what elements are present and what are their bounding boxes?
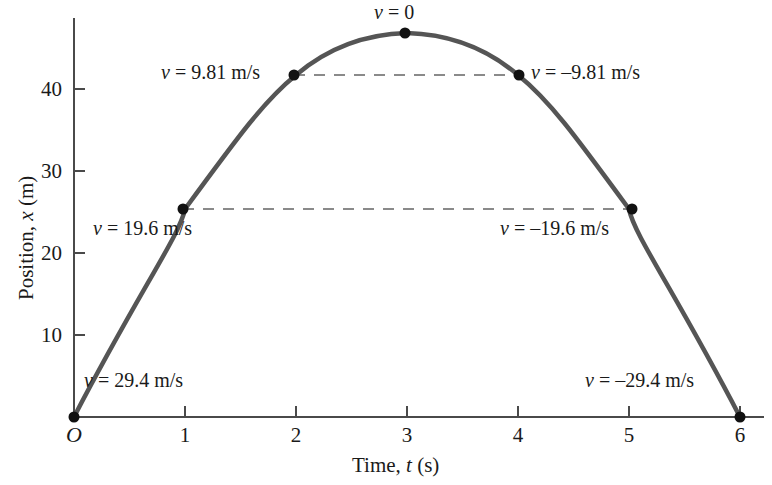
annotation-v-down-9: v = –9.81 m/s [531,62,640,82]
annotation-v-down-19-variable: v [500,217,509,239]
x-tick-label-5: 5 [609,425,649,446]
marker-t3 [400,28,411,39]
x-tick-label-1: 1 [165,425,205,446]
marker-t5 [627,204,638,215]
y-axis-title: Position, x (m) [16,176,37,300]
marker-t2 [289,70,300,81]
annotation-v-end: v = –29.4 m/s [585,370,694,390]
position-time-figure: 40 30 20 10 O 1 2 3 4 5 6 Position, x (m… [0,0,772,485]
annotation-v-start: v = 29.4 m/s [84,370,183,390]
annotation-v-apex-value: = 0 [383,1,414,23]
annotation-v-up-9-variable: v [161,61,170,83]
annotation-v-down-19-value: = –19.6 m/s [509,217,609,239]
x-tick-label-3: 3 [387,425,427,446]
plot-canvas [0,0,772,485]
marker-t6 [735,412,746,423]
annotation-v-apex-variable: v [374,1,383,23]
x-axis-title-unit: (s) [412,453,439,477]
marker-t4 [514,70,525,81]
y-tick-label-10: 10 [16,325,62,346]
marker-t1 [178,204,189,215]
y-axis-title-prefix: Position, [14,221,38,300]
y-axis-ticks [74,89,85,335]
x-origin-label: O [61,424,87,446]
annotation-v-start-variable: v [84,369,93,391]
annotation-v-end-value: = –29.4 m/s [594,369,694,391]
annotation-v-up-19: v = 19.6 m/s [93,218,192,238]
x-tick-label-6: 6 [720,425,760,446]
annotation-v-start-value: = 29.4 m/s [93,369,183,391]
annotation-v-apex: v = 0 [374,2,414,22]
y-axis-title-variable: x [14,211,38,220]
x-axis-title-prefix: Time, [352,453,406,477]
annotation-v-down-19: v = –19.6 m/s [500,218,609,238]
annotation-v-up-19-variable: v [93,217,102,239]
annotation-v-up-19-value: = 19.6 m/s [102,217,192,239]
x-axis-ticks [185,406,740,417]
y-axis-title-unit: (m) [14,176,38,212]
annotation-v-down-9-value: = –9.81 m/s [540,61,640,83]
x-tick-label-4: 4 [498,425,538,446]
marker-t0 [69,412,80,423]
x-axis-title: Time, t (s) [352,455,439,476]
annotation-v-up-9: v = 9.81 m/s [161,62,260,82]
x-tick-label-2: 2 [276,425,316,446]
annotation-v-end-variable: v [585,369,594,391]
annotation-v-up-9-value: = 9.81 m/s [170,61,260,83]
y-tick-label-40: 40 [16,79,62,100]
annotation-v-down-9-variable: v [531,61,540,83]
